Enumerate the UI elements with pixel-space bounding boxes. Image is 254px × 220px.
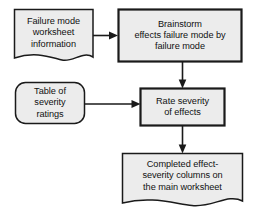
edge-rate-to-completed-arrowhead bbox=[179, 145, 187, 154]
node-rate-severity-shape[interactable] bbox=[141, 89, 225, 126]
node-table-severity-shape[interactable] bbox=[16, 83, 85, 124]
edge-worksheet-to-brainstorm-arrowhead bbox=[109, 32, 118, 40]
node-brainstorm-effects-shape[interactable] bbox=[119, 10, 242, 62]
flowchart-canvas: Failure mode worksheet information Brain… bbox=[0, 0, 254, 220]
node-completed-columns-shape[interactable] bbox=[123, 154, 243, 206]
edge-table-to-rate-arrowhead bbox=[132, 100, 141, 108]
edge-brainstorm-to-rate-arrowhead bbox=[179, 80, 187, 89]
node-failure-mode-worksheet-shape[interactable] bbox=[15, 10, 94, 61]
flowchart-svg bbox=[0, 0, 254, 220]
